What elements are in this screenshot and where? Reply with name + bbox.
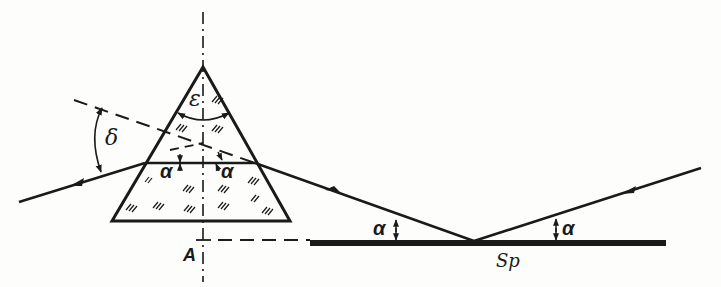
- delta-angle-arc: [95, 108, 102, 172]
- point-a-label: A: [182, 245, 196, 265]
- alpha-inner-right-label: α: [221, 160, 235, 182]
- mirror-label: Sp: [496, 250, 520, 271]
- alpha-mirror-right-label: α: [562, 217, 576, 239]
- optics-diagram: ε δ α α α α A Sp: [0, 0, 721, 287]
- alpha-inner-left-label: α: [160, 160, 174, 182]
- delta-label: δ: [105, 125, 118, 150]
- reflected-ray: [255, 163, 474, 241]
- alpha-mirror-left-label: α: [373, 217, 387, 239]
- mirror: [310, 240, 666, 246]
- diagram-canvas: ε δ α α α α A Sp: [0, 0, 721, 287]
- glass-hatching: [126, 96, 273, 215]
- epsilon-label: ε: [189, 86, 201, 111]
- inner-alpha-arrows: [180, 152, 222, 171]
- incident-ray: [474, 168, 701, 241]
